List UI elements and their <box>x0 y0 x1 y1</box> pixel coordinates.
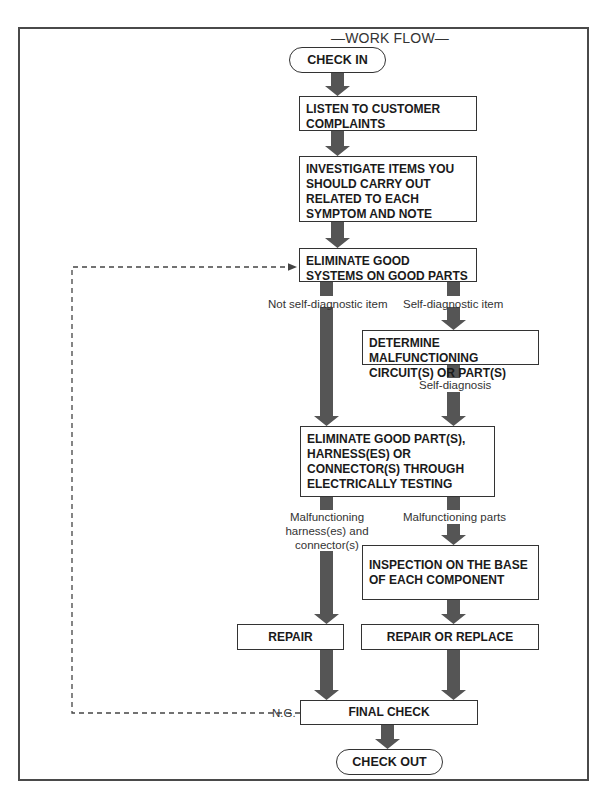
arrow-down-icon <box>325 222 350 248</box>
arrow-down-icon <box>325 73 350 96</box>
label-line: harness(es) and <box>278 524 376 538</box>
arrow-down-icon <box>314 551 339 624</box>
arrow-shaft <box>320 282 333 296</box>
label-self-diagnostic: Self-diagnostic item <box>403 297 503 311</box>
arrow-down-icon <box>325 131 350 156</box>
arrow-down-icon <box>441 392 466 426</box>
arrow-shaft <box>447 282 460 296</box>
label-line: Malfunctioning <box>278 510 376 524</box>
node-repair: REPAIR <box>237 624 344 650</box>
node-eliminate-systems: ELIMINATE GOOD SYSTEMS ON GOOD PARTS <box>299 248 477 282</box>
node-repair-or-replace: REPAIR OR REPLACE <box>361 624 539 650</box>
arrow-down-icon <box>441 600 466 624</box>
arrow-down-icon <box>375 725 400 749</box>
node-check-in: CHECK IN <box>289 47 386 73</box>
node-listen: LISTEN TO CUSTOMER COMPLAINTS <box>299 96 477 131</box>
arrow-shaft <box>447 497 460 510</box>
arrow-down-icon <box>314 307 339 426</box>
label-malfunctioning-parts: Malfunctioning parts <box>403 510 506 524</box>
arrow-down-icon <box>441 650 466 700</box>
arrow-down-icon <box>441 524 466 545</box>
node-eliminate-parts: ELIMINATE GOOD PART(S), HARNESS(ES) OR C… <box>300 426 495 497</box>
node-determine: DETERMINE MALFUNCTIONING CIRCUIT(S) OR P… <box>362 330 539 365</box>
arrow-down-icon <box>314 650 339 700</box>
node-investigate: INVESTIGATE ITEMS YOU SHOULD CARRY OUT R… <box>299 156 477 222</box>
label-ng: N.G. <box>272 706 296 720</box>
node-inspection: INSPECTION ON THE BASE OF EACH COMPONENT <box>362 545 539 600</box>
node-check-out: CHECK OUT <box>336 749 443 775</box>
node-final-check: FINAL CHECK <box>300 700 478 725</box>
label-not-self-diagnostic: Not self-diagnostic item <box>268 297 388 311</box>
label-self-diagnosis: Self-diagnosis <box>419 378 491 392</box>
arrow-shaft <box>320 497 333 510</box>
